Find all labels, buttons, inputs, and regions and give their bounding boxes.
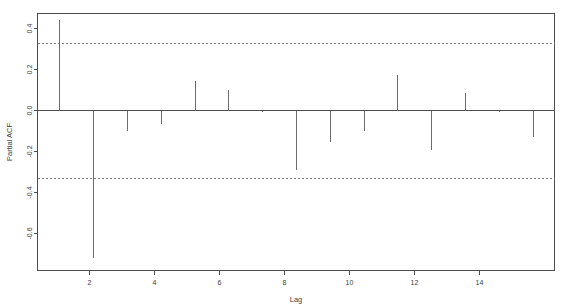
- x-tick-label-8: 8: [283, 279, 287, 286]
- x-tick-label-6: 6: [218, 279, 222, 286]
- chart-canvas: 0.4 0.2 0.0 -0.2 -0.4 -0.6 Partial ACF 2…: [0, 0, 563, 308]
- x-tick-label-10: 10: [346, 279, 354, 286]
- y-tick-label-0.2: 0.2: [26, 65, 33, 75]
- y-tick-label--0.2: -0.2: [26, 145, 33, 157]
- x-tick-label-12: 12: [411, 279, 419, 286]
- x-axis-title: Lag: [290, 295, 303, 304]
- y-tick-label-0.4: 0.4: [26, 24, 33, 34]
- x-tick-label-4: 4: [153, 279, 157, 286]
- x-tick-label-2: 2: [88, 279, 92, 286]
- y-tick-label-0.0: 0.0: [26, 106, 33, 116]
- y-tick-label--0.6: -0.6: [26, 227, 33, 239]
- y-tick-label--0.4: -0.4: [26, 186, 33, 198]
- pacf-plot-figure: 0.4 0.2 0.0 -0.2 -0.4 -0.6 Partial ACF 2…: [0, 0, 563, 308]
- plot-background: [0, 0, 563, 308]
- x-tick-label-14: 14: [476, 279, 484, 286]
- y-axis-title: Partial ACF: [5, 123, 14, 161]
